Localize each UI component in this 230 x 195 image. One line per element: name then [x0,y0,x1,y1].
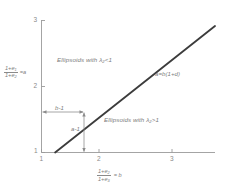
line-equation-label: a=b(1+d) [155,71,180,77]
x-axis-label-fraction: 1+e2 1+e3 [97,169,111,183]
chart-canvas [0,0,230,195]
horizontal-span-label: b-1 [55,105,64,111]
y-tick-label-2: 2 [34,83,38,90]
x-tick-label-2: 2 [97,156,101,163]
vertical-span-label: a-1 [71,126,80,132]
y-tick-label-3: 3 [34,17,38,24]
x-tick-label-3: 3 [170,156,174,163]
x-axis-label-equals: = b [111,173,122,179]
y-tick-label-1: 1 [34,148,38,155]
x-axis-label: 1+e2 1+e3 = b [97,169,122,183]
y-axis-label-equals: =a [18,70,26,76]
x-axis-label-denominator: 1+e3 [97,175,111,182]
chart-background [0,0,230,195]
region-label-lower: Ellipsoids with λ₂>1 [104,117,159,123]
figure-container: 3 2 1 1 2 3 1+e1 1+e2 =a 1+e2 1+e3 = b E… [0,0,230,195]
y-axis-label-fraction: 1+e1 1+e2 [4,66,18,80]
y-axis-label-denominator: 1+e2 [4,72,18,79]
y-axis-label: 1+e1 1+e2 =a [4,66,26,80]
region-label-upper: Ellipsoids with λ₂<1 [57,57,112,63]
x-tick-label-1: 1 [40,156,44,163]
